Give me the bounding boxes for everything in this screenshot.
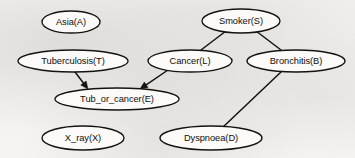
diagram-canvas: Asia(A)Smoker(S)Tuberculosis(T)Cancer(L)…	[0, 0, 355, 158]
node-b[interactable]: Bronchitis(B)	[247, 50, 345, 72]
node-label: Dyspnoea(D)	[184, 133, 238, 143]
edge-line	[145, 70, 168, 86]
node-t[interactable]: Tuberculosis(T)	[18, 50, 128, 72]
node-label: Tuberculosis(T)	[41, 56, 104, 66]
node-label: Tub_or_cancer(E)	[80, 94, 154, 104]
node-label: X_ray(X)	[65, 133, 101, 143]
arrowhead-icon	[140, 82, 148, 89]
arrowhead-icon	[81, 81, 88, 89]
node-l[interactable]: Cancer(L)	[148, 50, 232, 72]
edge-s-to-b	[256, 31, 281, 50]
node-x[interactable]: X_ray(X)	[42, 126, 124, 150]
node-layer: Asia(A)Smoker(S)Tuberculosis(T)Cancer(L)…	[18, 9, 345, 150]
node-a[interactable]: Asia(A)	[42, 11, 100, 33]
node-d[interactable]: Dyspnoea(D)	[160, 126, 262, 150]
edge-layer	[75, 31, 281, 128]
node-e[interactable]: Tub_or_cancer(E)	[55, 88, 179, 110]
edge-line	[222, 72, 281, 128]
bayesian-network-graph: Asia(A)Smoker(S)Tuberculosis(T)Cancer(L)…	[0, 0, 355, 158]
edge-b-to-d	[222, 72, 281, 128]
edge-s-to-l	[201, 31, 226, 50]
edge-t-to-e	[75, 72, 88, 89]
edge-l-to-e	[140, 70, 168, 89]
edge-line	[201, 31, 226, 50]
edge-line	[256, 31, 281, 50]
node-label: Bronchitis(B)	[270, 56, 323, 66]
node-label: Asia(A)	[56, 17, 86, 27]
node-label: Smoker(S)	[219, 16, 263, 26]
node-s[interactable]: Smoker(S)	[202, 9, 280, 33]
node-label: Cancer(L)	[170, 56, 211, 66]
edge-line	[75, 72, 85, 85]
